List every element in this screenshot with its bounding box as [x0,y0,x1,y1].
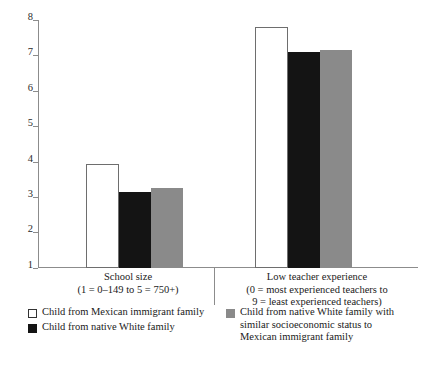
y-tick-mark [33,162,38,163]
legend-item-native-white: Child from native White family [28,321,223,334]
y-tick-mark [33,268,38,269]
y-tick-label: 4 [28,154,33,165]
y-tick-mark [33,55,38,56]
y-tick-label: 1 [28,260,33,271]
y-tick-label: 5 [28,118,33,129]
y-tick-mark [33,91,38,92]
bar-chart-figure: 8 7 6 5 4 3 2 1 [0,0,432,367]
y-tick-label: 8 [28,12,33,23]
legend-item-native-white-ses: Child from native White family with simi… [226,306,422,344]
category-label-school-size: School size (1 = 0–149 to 5 = 750+) [42,271,214,296]
y-tick-mark [33,20,38,21]
plot-area: 8 7 6 5 4 3 2 1 [38,20,418,268]
legend-label: Child from native White family [42,321,175,334]
legend-swatch-gray-icon [226,309,235,318]
group-divider [214,267,215,305]
legend-swatch-white-icon [28,309,37,318]
legend-column-right: Child from native White family with simi… [226,306,422,346]
legend-label: Child from Mexican immigrant family [42,306,204,319]
y-tick-mark [33,232,38,233]
category-label-line-1: Low teacher experience [216,271,418,284]
legend-item-mexican-immigrant: Child from Mexican immigrant family [28,306,223,319]
y-tick-label: 6 [28,83,33,94]
category-label-line-2: (1 = 0–149 to 5 = 750+) [42,284,214,297]
category-label-teacher-experience: Low teacher experience (0 = most experie… [216,271,418,309]
bar-teacher-experience-mexican-immigrant [255,27,288,268]
legend: Child from Mexican immigrant family Chil… [28,306,418,362]
legend-label-line-3: Mexican immigrant family [240,331,353,342]
bar-school-size-native-white-ses [151,188,183,268]
legend-swatch-black-icon [28,324,37,333]
y-tick-label: 2 [28,224,33,235]
y-tick-label: 3 [28,189,33,200]
legend-label-multiline: Child from native White family with simi… [240,306,394,344]
y-tick-mark [33,197,38,198]
bar-teacher-experience-native-white-ses [320,50,352,268]
category-label-line-2: (0 = most experienced teachers to [216,284,418,297]
bar-school-size-native-white [119,192,151,268]
category-label-line-1: School size [42,271,214,284]
bar-school-size-mexican-immigrant [86,164,119,269]
y-tick-mark [33,126,38,127]
bar-teacher-experience-native-white [288,52,320,269]
legend-label-line-1: Child from native White family with [240,306,394,317]
legend-column-left: Child from Mexican immigrant family Chil… [28,306,223,335]
legend-label-line-2: similar socioeconomic status to [240,319,372,330]
y-axis-line [38,20,39,268]
y-tick-label: 7 [28,47,33,58]
